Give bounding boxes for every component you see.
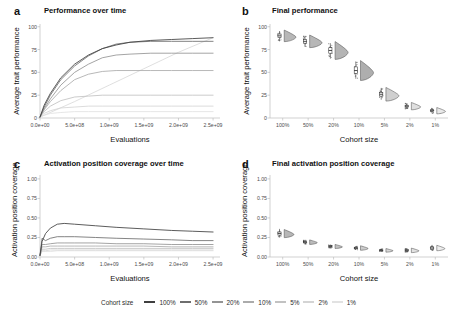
axis-tick-label: 0.50 [248, 215, 267, 221]
legend-item[interactable]: 5% [271, 299, 299, 306]
legend-title: Cohort size [101, 299, 133, 306]
legend-label: 2% [318, 299, 327, 306]
axis-tick-label: 1.5e+09 [128, 261, 160, 267]
legend-label: 5% [290, 299, 299, 306]
panel-b-title: Final performance [272, 7, 338, 15]
legend-item[interactable]: 10% [239, 299, 271, 306]
legend-item[interactable]: 2% [299, 299, 327, 306]
axis-tick-label: 0.0e+00 [24, 261, 56, 267]
axis-tick-label: 0.75 [18, 195, 37, 201]
panel-a-title: Performance over time [44, 7, 126, 15]
panel-c-xlabel: Evaluations [40, 274, 220, 283]
axis-tick-label: 0.25 [18, 234, 37, 240]
axis-tick-label: 2.0e+09 [162, 261, 194, 267]
legend-label: 100% [159, 299, 175, 306]
legend-label: 50% [195, 299, 208, 306]
axis-tick-label: 1.00 [248, 176, 267, 182]
axis-tick-label: 1% [419, 261, 451, 267]
legend-swatch-line [212, 301, 223, 302]
axis-tick-label: 1% [419, 122, 451, 128]
axis-tick-label: 2.0e+09 [162, 122, 194, 128]
panel-b-plot-area [270, 24, 448, 118]
legend-swatch-line [243, 301, 254, 302]
axis-tick-label: 1.0e+09 [93, 122, 125, 128]
panel-b-xlabel: Cohort size [270, 135, 448, 144]
panel-b-letter: b [242, 6, 249, 17]
axis-tick-label: 0.0e+00 [24, 122, 56, 128]
panel-c-title: Activation position coverage over time [44, 160, 184, 168]
axis-tick-label: 25 [248, 92, 267, 98]
legend-item[interactable]: 20% [208, 299, 240, 306]
legend-swatch-line [180, 301, 191, 302]
legend-swatch-line [144, 301, 155, 302]
legend-item[interactable]: 1% [328, 299, 356, 306]
panel-a: a Performance over time Average trait pe… [0, 2, 228, 157]
axis-tick-label: 0.00 [248, 254, 267, 260]
panel-a-plot-area [40, 24, 220, 118]
axis-tick-label: 100 [248, 24, 267, 30]
panel-a-letter: a [14, 6, 20, 17]
axis-tick-label: 5.0e+08 [59, 122, 91, 128]
axis-tick-label: 0.25 [248, 234, 267, 240]
axis-tick-label: 0.00 [18, 254, 37, 260]
legend: Cohort size 100%50%20%10%5%2%1% [0, 292, 457, 312]
legend-label: 1% [347, 299, 356, 306]
axis-tick-label: 50 [248, 69, 267, 75]
axis-tick-label: 1.0e+09 [93, 261, 125, 267]
legend-label: 10% [258, 299, 271, 306]
legend-item[interactable]: 50% [176, 299, 208, 306]
panel-a-xlabel: Evaluations [40, 135, 220, 144]
legend-item[interactable]: 100% [140, 299, 175, 306]
axis-tick-label: 0.50 [18, 215, 37, 221]
axis-tick-label: 75 [248, 47, 267, 53]
panel-d-plot-area [270, 175, 448, 257]
legend-label: 20% [227, 299, 240, 306]
axis-tick-label: 0.75 [248, 195, 267, 201]
panel-c: c Activation position coverage over time… [0, 155, 228, 290]
axis-tick-label: 50 [18, 69, 37, 75]
panel-d-title: Final activation position coverage [272, 160, 394, 168]
axis-tick-label: 1.00 [18, 176, 37, 182]
axis-tick-label: 75 [18, 47, 37, 53]
legend-swatch-line [275, 301, 286, 302]
figure-root: a Performance over time Average trait pe… [0, 0, 457, 316]
panel-b: b Final performance Average trait perfor… [228, 2, 457, 157]
panel-c-plot-area [40, 175, 220, 257]
panel-d: d Final activation position coverage Act… [228, 155, 457, 290]
axis-tick-label: 1.5e+09 [128, 122, 160, 128]
panel-d-xlabel: Cohort size [270, 274, 448, 283]
axis-tick-label: 0 [18, 115, 37, 121]
axis-tick-label: 25 [18, 92, 37, 98]
axis-tick-label: 100 [18, 24, 37, 30]
axis-tick-label: 0 [248, 115, 267, 121]
axis-tick-label: 2.5e+09 [197, 261, 229, 267]
legend-swatch-line [303, 301, 314, 302]
axis-tick-label: 2.5e+09 [197, 122, 229, 128]
legend-items: 100%50%20%10%5%2%1% [140, 299, 356, 306]
axis-tick-label: 5.0e+08 [59, 261, 91, 267]
legend-swatch-line [332, 301, 343, 302]
